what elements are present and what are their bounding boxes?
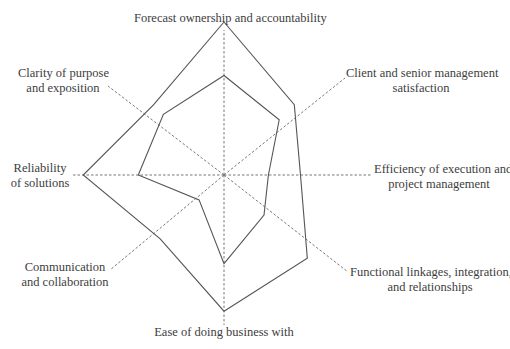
label-communication-line2: and collaboration <box>20 275 110 290</box>
label-functional-line2: and relationships <box>350 280 510 295</box>
label-efficiency-line2: project management <box>374 177 504 192</box>
series-inner-polygon <box>138 76 279 264</box>
label-communication-line1: Communication <box>20 260 110 275</box>
label-clarity: Clarity of purpose and exposition <box>18 66 108 96</box>
label-clarity-line2: and exposition <box>18 81 108 96</box>
label-reliability: Reliability of solutions <box>10 161 70 191</box>
axis-clarity <box>108 86 224 175</box>
label-reliability-line1: Reliability <box>10 161 70 176</box>
label-functional: Functional linkages, integration, and re… <box>350 265 510 295</box>
axis-communication <box>110 175 224 270</box>
label-communication: Communication and collaboration <box>20 260 110 290</box>
label-functional-line1: Functional linkages, integration, <box>350 265 510 280</box>
axes <box>72 30 372 325</box>
label-reliability-line2: of solutions <box>10 176 70 191</box>
label-client-line2: satisfaction <box>346 81 496 96</box>
label-efficiency-line1: Efficiency of execution and <box>374 162 504 177</box>
label-forecast: Forecast ownership and accountability <box>134 11 314 26</box>
label-efficiency: Efficiency of execution and project mana… <box>374 162 504 192</box>
axis-functional <box>224 175 348 272</box>
label-client: Client and senior management satisfactio… <box>346 66 496 96</box>
label-ease: Ease of doing business with <box>144 325 304 340</box>
series-outer-polygon <box>83 22 307 311</box>
label-client-line1: Client and senior management <box>346 66 496 81</box>
label-clarity-line1: Clarity of purpose <box>18 66 108 81</box>
